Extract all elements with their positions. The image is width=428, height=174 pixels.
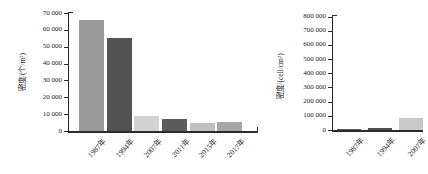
y-tick-label: 0 [284,126,326,135]
y-tick [328,102,332,103]
y-tick-label: 300 000 [284,83,326,92]
y-tick-label: 100 000 [284,111,326,120]
bar-1994年 [368,128,392,130]
y-tick-label: 400 000 [284,69,326,78]
y-tick [328,59,332,60]
y-tick-label: 800 000 [284,12,326,21]
y-axis [332,15,333,132]
x-category-label: 1987年 [342,135,365,158]
y-tick-label: 200 000 [284,97,326,106]
y-tick [328,17,332,18]
y-tick-label: 700 000 [284,26,326,35]
y-tick-label: 600 000 [284,40,326,49]
y-tick-label: 500 000 [284,55,326,64]
y-tick [328,73,332,74]
y-axis-title: 密度/(cell/cm²) [274,53,285,98]
x-axis [332,130,423,132]
bar-2007年 [399,118,423,130]
y-axis-end-cap [332,15,337,16]
y-tick [328,116,332,117]
x-category-label: 1994年 [373,135,396,158]
y-tick [328,130,332,131]
bar-1987年 [337,129,361,130]
y-tick [328,31,332,32]
y-tick [328,87,332,88]
y-tick [328,45,332,46]
x-category-label: 2007年 [404,135,427,158]
